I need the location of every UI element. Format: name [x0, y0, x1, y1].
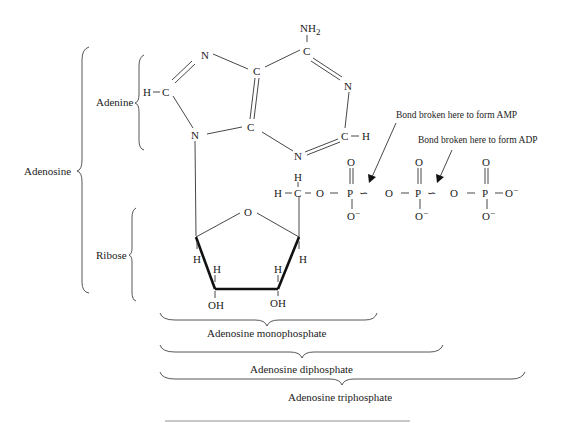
c2-label: C: [341, 130, 348, 142]
pb-label: P: [415, 187, 421, 199]
c5-label: C: [253, 65, 260, 77]
horizontal-braces: Adenosine monophosphate Adenosine diphos…: [160, 313, 525, 403]
pa-o-top-label: O: [347, 156, 355, 168]
high-energy-bond-2: ∽: [427, 187, 436, 199]
bridge-o1-label: O: [385, 187, 393, 199]
ribose-brace: [129, 208, 136, 301]
amp-brace: [160, 313, 377, 326]
adp-arrow-icon: [436, 174, 444, 183]
n7-label: N: [201, 49, 209, 61]
footer-rule: [165, 420, 410, 422]
pg-o-top-label: O: [482, 156, 490, 168]
h5a-label: H: [294, 171, 302, 183]
n9-label: N: [191, 129, 199, 141]
atp-label: Adenosine triphosphate: [288, 391, 392, 403]
h2-label: H: [362, 130, 370, 142]
adenine-atoms: NH2 C N C N H C C N C H N: [143, 22, 370, 162]
o5p-label: O: [316, 187, 324, 199]
amp-bond-note: Bond broken here to form AMP: [396, 110, 517, 120]
n3-label: N: [294, 150, 302, 162]
atp-structure-diagram: NH2 C N C N H C C N C H N O H H C O H H …: [0, 0, 570, 423]
ring-oxygen-label: O: [244, 206, 252, 218]
oh2p-label: OH: [208, 299, 224, 311]
ribose-bonds: [196, 182, 338, 298]
h1p-label: H: [193, 253, 201, 265]
bridge-o2-label: O: [450, 187, 458, 199]
adp-arrow-line: [440, 150, 452, 177]
bond-annotations: Bond broken here to form AMP Bond broken…: [368, 110, 538, 183]
pa-o-bot-label: O−: [347, 208, 360, 222]
c5p-label: C: [294, 187, 301, 199]
pb-o-top-label: O: [415, 156, 423, 168]
adenosine-brace: [77, 47, 89, 293]
adp-bond-note: Bond broken here to form ADP: [418, 135, 538, 145]
h5b-label: H: [274, 187, 282, 199]
ribose-label: Ribose: [96, 249, 127, 261]
adenine-label: Adenine: [96, 96, 133, 108]
pb-o-bot-label: O−: [415, 208, 428, 222]
pg-o-bot-label: O−: [482, 208, 495, 222]
amp-arrow-line: [372, 123, 396, 177]
c6-label: C: [303, 45, 310, 57]
adenine-brace: [135, 55, 144, 150]
h3p-label: H: [274, 263, 282, 275]
c8-label: C: [162, 86, 169, 98]
pa-label: P: [347, 187, 353, 199]
high-energy-bond-1: ∽: [359, 187, 368, 199]
adenosine-label: Adenosine: [24, 165, 71, 177]
pg-label: P: [482, 187, 488, 199]
h8-label: H: [143, 86, 151, 98]
phosphate-atoms: O P O− ∽ O O P O− ∽ O O P O− O−: [347, 156, 518, 222]
c4-label: C: [247, 121, 254, 133]
pg-o-right-label: O−: [505, 185, 518, 199]
amp-arrow-icon: [368, 174, 376, 183]
n1-label: N: [344, 80, 352, 92]
h4p-label: H: [299, 253, 307, 265]
oh3p-label: OH: [270, 297, 286, 309]
adp-label: Adenosine diphosphate: [250, 363, 353, 375]
adp-brace: [160, 345, 443, 358]
h2p-label: H: [213, 263, 221, 275]
nh2-label: NH2: [300, 22, 320, 37]
vertical-braces: Adenosine Adenine Ribose: [24, 47, 144, 301]
amp-label: Adenosine monophosphate: [207, 327, 327, 339]
